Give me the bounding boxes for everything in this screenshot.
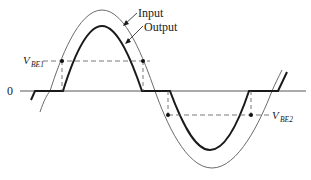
vbe1-label-sub: BE1 [31, 60, 44, 69]
vbe2-label: V BE2 [272, 109, 293, 124]
vbe2-point-left [166, 113, 170, 117]
vbe1-label-main: V [23, 54, 31, 66]
vbe2-label-main: V [272, 109, 280, 121]
input-label: Input [138, 6, 164, 20]
vbe1-point-right [141, 59, 145, 63]
output-leader [127, 26, 143, 42]
vbe1-label: V BE1 [23, 54, 44, 69]
vbe2-label-sub: BE2 [280, 115, 293, 124]
vbe1-point-left [60, 59, 64, 63]
zero-label: 0 [7, 84, 13, 98]
vbe2-point-right [249, 113, 253, 117]
crossover-distortion-diagram: 0 Input Output V BE1 V BE2 [0, 0, 311, 180]
output-waveform [31, 26, 287, 150]
output-label: Output [144, 20, 178, 34]
